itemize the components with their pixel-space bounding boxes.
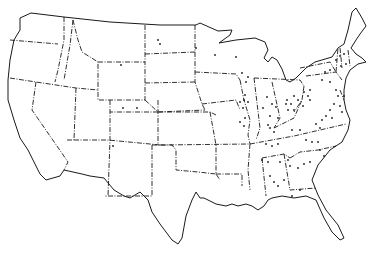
location-dot <box>325 115 327 117</box>
state-border <box>262 154 290 158</box>
location-dot <box>277 117 279 119</box>
location-dot <box>321 119 323 121</box>
location-dot <box>261 159 263 161</box>
us-map <box>0 0 381 259</box>
location-dot <box>302 105 304 107</box>
location-dot <box>290 103 292 105</box>
location-dot <box>247 76 249 78</box>
location-dot <box>243 125 245 127</box>
state-border <box>195 72 240 80</box>
location-dot <box>321 79 323 81</box>
location-dots <box>112 39 347 197</box>
state-border <box>32 82 68 170</box>
location-dot <box>303 91 305 93</box>
location-dot <box>340 65 342 67</box>
state-border <box>145 52 195 54</box>
state-border <box>240 80 250 144</box>
state-border <box>152 145 216 174</box>
location-dot <box>315 123 317 125</box>
state-border <box>272 82 280 128</box>
location-dot <box>120 64 122 66</box>
location-dot <box>287 109 289 111</box>
state-border <box>98 62 145 100</box>
location-dot <box>293 109 295 111</box>
location-dot <box>245 81 247 83</box>
location-dot <box>122 107 124 109</box>
location-dot <box>309 161 311 163</box>
state-border <box>284 154 316 190</box>
state-border <box>248 144 250 190</box>
state-border <box>254 78 260 140</box>
location-dot <box>291 129 293 131</box>
location-dot <box>267 124 269 126</box>
location-dot <box>339 55 341 57</box>
state-borders <box>10 17 350 196</box>
location-dot <box>345 63 347 65</box>
location-dot <box>337 95 339 97</box>
location-dot <box>275 106 277 108</box>
location-dot <box>157 39 159 41</box>
location-dot <box>299 129 301 131</box>
state-border <box>66 88 76 140</box>
location-dot <box>277 185 279 187</box>
location-dot <box>241 72 243 74</box>
location-dot <box>265 143 267 145</box>
location-dot <box>324 71 326 73</box>
state-border <box>10 40 58 44</box>
location-dot <box>112 145 114 147</box>
state-border <box>160 144 250 145</box>
location-dot <box>247 101 249 103</box>
location-dot <box>271 145 273 147</box>
state-border <box>73 20 98 90</box>
location-dot <box>289 165 291 167</box>
location-dot <box>273 181 275 183</box>
state-border <box>104 145 152 196</box>
location-dot <box>277 143 279 145</box>
location-dot <box>214 54 216 56</box>
location-dot <box>329 69 331 71</box>
location-dot <box>269 175 271 177</box>
location-dot <box>136 107 138 109</box>
state-border <box>254 78 304 86</box>
state-border <box>202 100 240 110</box>
location-dot <box>287 159 289 161</box>
location-dot <box>343 53 345 55</box>
location-dot <box>262 107 264 109</box>
location-dot <box>273 131 275 133</box>
state-border <box>108 100 110 196</box>
location-dot <box>309 89 311 91</box>
location-dot <box>343 95 345 97</box>
location-dot <box>159 43 161 45</box>
state-border <box>210 112 220 180</box>
location-dot <box>311 141 313 143</box>
location-dot <box>286 99 288 101</box>
location-dot <box>303 163 305 165</box>
location-dot <box>271 103 273 105</box>
location-dot <box>333 103 335 105</box>
location-dot <box>335 89 337 91</box>
location-dot <box>317 141 319 143</box>
state-border <box>294 86 304 112</box>
state-border <box>158 112 216 115</box>
state-border <box>64 20 73 80</box>
location-dot <box>235 56 237 58</box>
location-dot <box>319 127 321 129</box>
location-dot <box>319 149 321 151</box>
location-dot <box>305 139 307 141</box>
location-dot <box>269 127 271 129</box>
location-dot <box>293 95 295 97</box>
location-dot <box>299 189 301 191</box>
state-border <box>340 90 344 100</box>
location-dot <box>297 99 299 101</box>
location-dot <box>244 94 246 96</box>
location-dot <box>244 117 246 119</box>
location-dot <box>242 107 244 109</box>
location-dot <box>297 167 299 169</box>
location-dot <box>309 99 311 101</box>
location-dot <box>283 179 285 181</box>
location-dot <box>239 121 241 123</box>
location-dot <box>329 81 331 83</box>
location-dot <box>267 161 269 163</box>
location-dot <box>269 115 271 117</box>
state-border <box>290 146 336 158</box>
